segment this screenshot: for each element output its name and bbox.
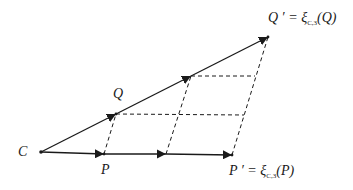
pprime-lhs: P ′ =	[229, 163, 260, 178]
dashed-line-q-horizontal	[116, 114, 244, 115]
pprime-arg: (P)	[276, 163, 294, 178]
point-p	[103, 153, 106, 156]
label-qprime-equation: Q ′ = ξC,3(Q)	[268, 11, 336, 27]
vector-p2-pprime	[166, 154, 232, 155]
vector-q2-qprime	[191, 37, 268, 76]
vector-c-p	[41, 152, 104, 154]
label-pprime-equation: P ′ = ξC,3(P)	[229, 164, 294, 180]
ray-cp	[41, 152, 232, 155]
label-q: Q	[113, 87, 123, 101]
ray-cq	[41, 37, 268, 152]
vector-q-q2	[116, 76, 191, 114]
homothety-diagram	[0, 0, 353, 190]
qprime-lhs: Q ′ =	[268, 10, 301, 25]
point-qprime	[267, 36, 270, 39]
vector-c-q	[41, 114, 116, 152]
point-c	[39, 150, 43, 154]
label-p: P	[101, 163, 110, 177]
qprime-arg: (Q)	[317, 10, 336, 25]
dashed-line-pprime-qprime	[232, 37, 268, 155]
point-q	[115, 113, 118, 116]
xi-subscript-p: C,3	[266, 172, 276, 180]
dashed-line-p-q	[104, 114, 116, 154]
point-pprime	[231, 154, 234, 157]
xi-subscript-q: C,3	[307, 19, 317, 27]
construction-lines	[104, 37, 268, 155]
label-c: C	[18, 145, 27, 159]
